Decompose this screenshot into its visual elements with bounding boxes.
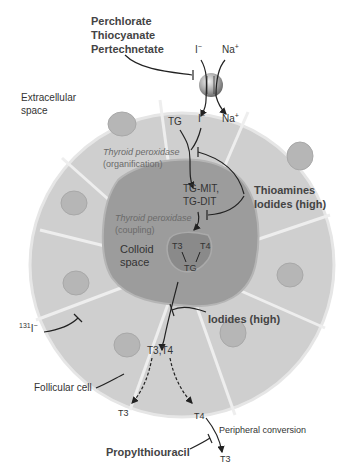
- extracellular-label-2: space: [21, 105, 48, 117]
- ion-sodium-out: Na+: [222, 44, 239, 56]
- enzyme-coupling-name: Thyroid peroxidase: [115, 212, 192, 224]
- inhibitor-pertechnetate: Pertechnetate: [91, 43, 164, 56]
- thyroid-follicle-diagram: [0, 0, 342, 472]
- complex-tg: TG: [184, 262, 197, 274]
- radioiodine-label: 131I−: [19, 323, 38, 335]
- enzyme-organification-name: Thyroid peroxidase: [103, 146, 180, 158]
- inhibitor-perchlorate: Perchlorate: [91, 15, 152, 28]
- peripheral-t3: T3: [220, 453, 231, 465]
- intermediate-tg-mit: TG-MIT,: [183, 183, 219, 195]
- ion-iodide-in: I−: [198, 113, 205, 125]
- output-t4: T4: [194, 410, 205, 422]
- enzyme-coupling-step: (coupling): [115, 224, 155, 236]
- inhibitor-propylthiouracil: Propylthiouracil: [106, 446, 190, 459]
- inhibitor-iodides-high-2: Iodides (high): [208, 313, 280, 326]
- colloid-label-2: space: [120, 256, 149, 268]
- complex-t3: T3: [172, 240, 183, 252]
- released-t3-t4: T3,T4: [147, 345, 173, 357]
- complex-t4: T4: [200, 240, 211, 252]
- colloid-label-1: Colloid: [120, 243, 154, 255]
- ion-sodium-in: Na+: [222, 113, 239, 125]
- tg-label: TG: [168, 116, 182, 128]
- ion-iodide-out: I−: [195, 44, 202, 56]
- intermediate-tg-dit: TG-DIT: [183, 196, 216, 208]
- inhibitor-thiocyanate: Thiocyanate: [91, 29, 155, 42]
- inhibitor-iodides-high-1: Iodides (high): [254, 198, 326, 211]
- follicular-cell-label: Follicular cell: [34, 382, 92, 394]
- inhibitor-thioamines: Thioamines: [254, 184, 315, 197]
- enzyme-organification-step: (organification): [103, 158, 163, 170]
- extracellular-label-1: Extracellular: [21, 92, 76, 104]
- peripheral-conversion-label: Peripheral conversion: [219, 424, 306, 436]
- nis-transporter: [199, 73, 223, 97]
- output-t3: T3: [118, 407, 129, 419]
